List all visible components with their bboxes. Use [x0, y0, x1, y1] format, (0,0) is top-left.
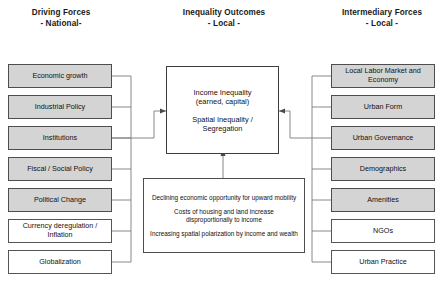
- node-label: NGOs: [373, 227, 393, 236]
- wire-right-riser: [290, 111, 312, 138]
- outcome-spatial-line1: Spatial Inequality /: [192, 115, 252, 124]
- node-label: Economic growth: [32, 72, 87, 81]
- driving-force-node-economic-growth[interactable]: Economic growth: [8, 64, 112, 88]
- outcome-group-income: Income Inequality (earned, capital): [194, 88, 252, 106]
- intermediary-force-node-urban-governance[interactable]: Urban Governance: [331, 126, 435, 150]
- left-column-subtitle: - National-: [8, 19, 114, 30]
- driving-force-node-political-change[interactable]: Political Change: [8, 188, 112, 212]
- inequality-outcomes-box[interactable]: Income Inequality (earned, capital) Spat…: [166, 66, 279, 154]
- node-label: Industrial Policy: [35, 103, 85, 112]
- node-label: Fiscal / Social Policy: [27, 165, 93, 174]
- intermediary-force-node-amenities[interactable]: Amenities: [331, 188, 435, 212]
- outcome-spatial-line2: Segregation: [203, 124, 243, 133]
- driving-force-node-currency-deregulation-inflation[interactable]: Currency deregulation / Inflation: [8, 219, 112, 243]
- driving-force-node-globalization[interactable]: Globalization: [8, 250, 112, 274]
- intermediary-force-node-urban-practice[interactable]: Urban Practice: [331, 250, 435, 274]
- left-column-title: Driving Forces: [32, 8, 91, 17]
- outcome-income-line2: (earned, capital): [196, 97, 249, 106]
- right-column-title: Intermediary Forces: [342, 8, 422, 17]
- node-label: Urban Form: [364, 103, 402, 112]
- right-column-subtitle: - Local -: [326, 19, 438, 30]
- node-label: Urban Governance: [353, 134, 414, 143]
- column-header-center: Inequality Outcomes - Local -: [148, 8, 300, 29]
- intermediary-force-node-local-labor-market[interactable]: Local Labor Market and Economy: [331, 64, 435, 88]
- intermediary-force-node-urban-form[interactable]: Urban Form: [331, 95, 435, 119]
- driving-force-node-fiscal-social-policy[interactable]: Fiscal / Social Policy: [8, 157, 112, 181]
- column-header-right: Intermediary Forces - Local -: [326, 8, 438, 29]
- node-label: Institutions: [43, 134, 77, 143]
- column-header-left: Driving Forces - National-: [8, 8, 114, 29]
- outcome-income-line1: Income Inequality: [194, 88, 252, 97]
- outcome-group-spatial: Spatial Inequality / Segregation: [192, 115, 252, 133]
- intermediary-force-node-demographics[interactable]: Demographics: [331, 157, 435, 181]
- center-column-subtitle: - Local -: [148, 19, 300, 30]
- diagram-canvas: Driving Forces - National- Inequality Ou…: [0, 0, 443, 281]
- node-label: Demographics: [360, 165, 406, 174]
- node-label: Currency deregulation / Inflation: [12, 222, 108, 239]
- intermediary-force-node-ngos[interactable]: NGOs: [331, 219, 435, 243]
- driving-force-node-institutions[interactable]: Institutions: [8, 126, 112, 150]
- driving-force-node-industrial-policy[interactable]: Industrial Policy: [8, 95, 112, 119]
- outcome-note-3: Increasing spatial polarization by incom…: [150, 230, 298, 238]
- wire-left-riser: [112, 111, 154, 138]
- node-label: Urban Practice: [359, 258, 407, 267]
- node-label: Amenities: [367, 196, 399, 205]
- node-label: Political Change: [34, 196, 86, 205]
- node-label: Globalization: [39, 258, 81, 267]
- center-column-title: Inequality Outcomes: [183, 8, 265, 17]
- outcome-notes-box[interactable]: Declining economic opportunity for upwar…: [143, 178, 305, 253]
- arrowhead-right: [279, 108, 285, 113]
- outcome-note-1: Declining economic opportunity for upwar…: [152, 194, 296, 202]
- node-label: Local Labor Market and Economy: [335, 67, 431, 84]
- outcome-note-2: Costs of housing and land increase dispr…: [150, 208, 298, 224]
